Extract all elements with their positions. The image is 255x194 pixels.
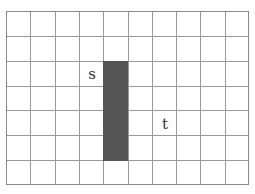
- grid-line-vertical: [30, 12, 31, 184]
- grid-diagram: s t: [6, 11, 249, 185]
- wall-obstacle: [103, 61, 128, 161]
- grid-line-vertical: [55, 12, 56, 184]
- start-label: s: [88, 67, 96, 82]
- grid-line-vertical: [200, 12, 201, 184]
- grid-line-vertical: [152, 12, 153, 184]
- grid-line-vertical: [176, 12, 177, 184]
- grid-line-vertical: [79, 12, 80, 184]
- grid-line-vertical: [225, 12, 226, 184]
- target-label: t: [162, 116, 168, 131]
